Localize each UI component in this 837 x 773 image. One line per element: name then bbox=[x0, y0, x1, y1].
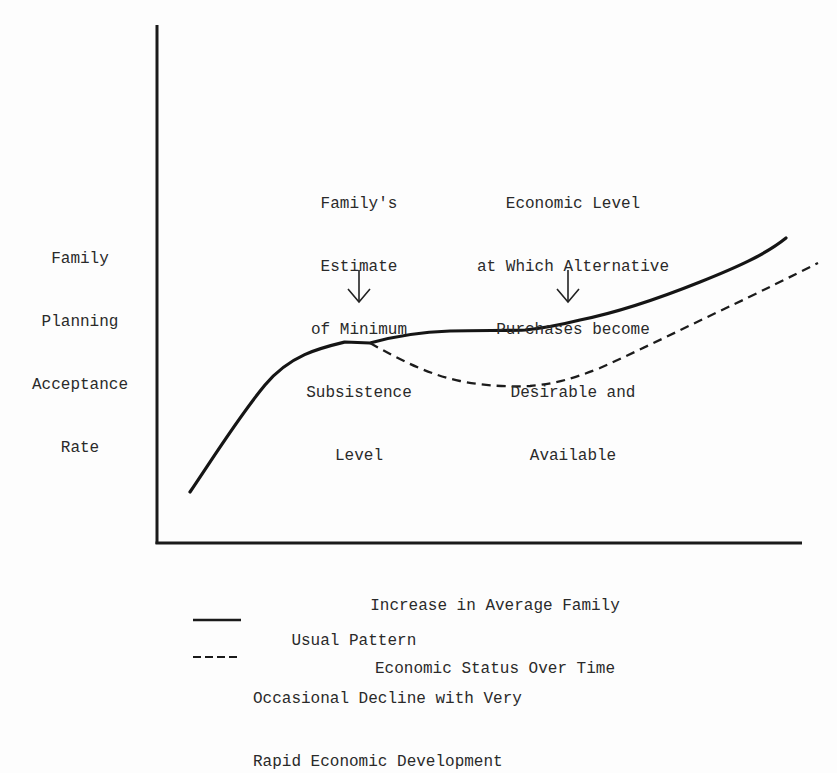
y-axis-label-line: Rate bbox=[20, 438, 140, 459]
y-axis-label: Family Planning Acceptance Rate bbox=[20, 207, 140, 480]
annotation-line: Purchases become bbox=[463, 320, 683, 341]
annotation-line: Subsistence bbox=[279, 383, 439, 404]
y-axis-label-line: Acceptance bbox=[20, 375, 140, 396]
annotation-line: at Which Alternative bbox=[463, 257, 683, 278]
legend-label: Rapid Economic Development bbox=[253, 752, 522, 773]
annotation-line: Family's bbox=[279, 194, 439, 215]
annotation-line: Level bbox=[279, 446, 439, 467]
annotation-line: of Minimum bbox=[279, 320, 439, 341]
annotation-line: Desirable and bbox=[463, 383, 683, 404]
y-axis-label-line: Planning bbox=[20, 312, 140, 333]
annotation-line: Available bbox=[463, 446, 683, 467]
annotation-line: Economic Level bbox=[463, 194, 683, 215]
annotation-line: Estimate bbox=[279, 257, 439, 278]
annotation-minimum-subsistence: Family's Estimate of Minimum Subsistence… bbox=[279, 152, 439, 488]
legend-label: Occasional Decline with Very bbox=[253, 689, 522, 710]
annotation-alternative-purchases: Economic Level at Which Alternative Purc… bbox=[463, 152, 683, 488]
legend-entry-occasional-decline: Occasional Decline with Very Rapid Econo… bbox=[253, 647, 522, 773]
y-axis-label-line: Family bbox=[20, 249, 140, 270]
